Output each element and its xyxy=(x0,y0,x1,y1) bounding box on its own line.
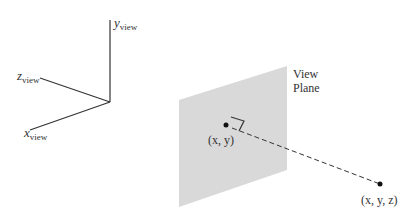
world-point-label: (x, y, z) xyxy=(361,193,398,207)
diagram-canvas: yview zview xview View Plane (x, y) (x, … xyxy=(0,0,412,219)
world-point xyxy=(378,182,383,187)
z-axis xyxy=(40,78,110,102)
y-axis-label: yview xyxy=(112,15,138,32)
x-axis xyxy=(30,102,110,130)
projected-point-label: (x, y) xyxy=(208,133,234,147)
view-plane-label-line1: View xyxy=(293,67,319,81)
viewing-coordinates-diagram: yview zview xview View Plane (x, y) (x, … xyxy=(0,0,412,219)
z-axis-label: zview xyxy=(16,68,40,85)
projected-point xyxy=(224,123,229,128)
view-axes xyxy=(30,20,110,130)
view-plane-label-line2: Plane xyxy=(293,81,320,95)
